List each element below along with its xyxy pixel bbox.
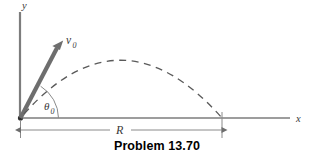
velocity-label: v 0 [66,34,77,50]
launch-angle-label: θ 0 [44,100,55,116]
velocity-symbol: v [66,34,72,46]
figure-caption: Problem 13.70 [0,139,314,153]
range-label: R [115,123,124,137]
y-axis-label: y [21,0,27,11]
velocity-subscript: 0 [73,41,77,50]
projectile-motion-figure: y x v 0 θ 0 R Problem 13.70 [0,0,314,165]
x-axis-label: x [295,113,301,124]
angle-subscript: 0 [51,107,55,116]
angle-symbol: θ [44,100,50,112]
